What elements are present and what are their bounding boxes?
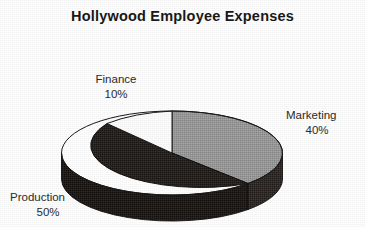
slice-label-finance-name: Finance: [83, 72, 149, 87]
slice-label-marketing: Marketing 40%: [286, 108, 364, 138]
slice-label-production-name: Production: [10, 190, 98, 205]
slice-label-finance: Finance 10%: [83, 72, 149, 102]
slice-label-production: Production 50%: [10, 190, 98, 220]
slice-label-marketing-name: Marketing: [286, 108, 364, 123]
slice-label-production-percent: 50%: [10, 205, 86, 220]
slice-label-marketing-percent: 40%: [286, 123, 348, 138]
pie-chart-figure: Hollywood Employee Expenses: [0, 0, 365, 227]
slice-label-finance-percent: 10%: [83, 87, 149, 102]
